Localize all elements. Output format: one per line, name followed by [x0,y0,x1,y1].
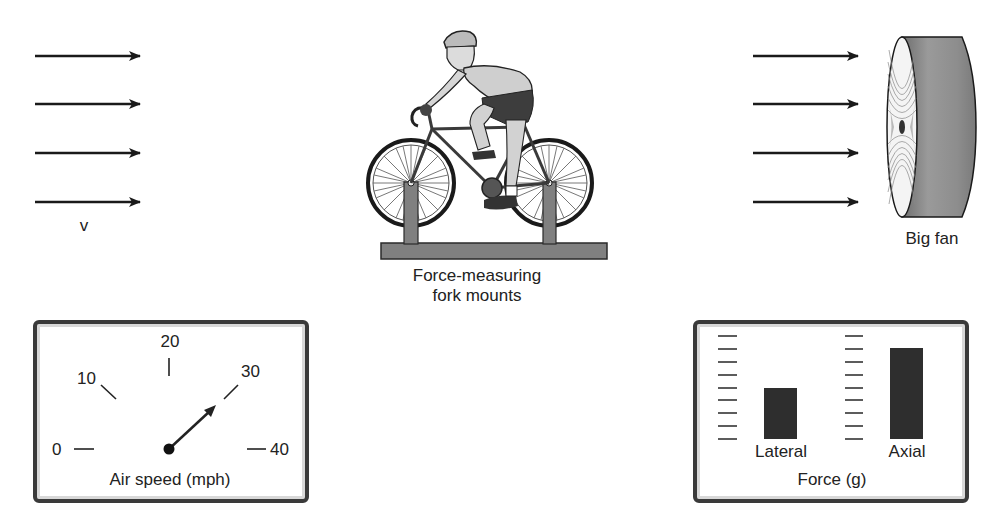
force-meter [0,0,1000,526]
lateral-force-bar [764,388,797,439]
axial-scale-ticks [845,336,863,439]
lateral-scale-ticks [718,336,737,439]
lateral-bar-label: Lateral [755,442,807,462]
axial-bar-label: Axial [889,442,926,462]
force-meter-title: Force (g) [798,470,867,490]
axial-force-bar [890,348,923,439]
